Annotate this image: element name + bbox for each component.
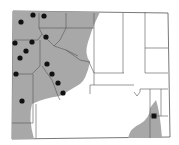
occurrence-dot-marker [60, 90, 65, 95]
occurrence-dot-marker [19, 98, 24, 103]
occurrence-square-marker [152, 114, 157, 119]
range-map [0, 0, 179, 145]
occurrence-dot-marker [12, 40, 17, 45]
occurrence-dot-marker [43, 34, 48, 39]
occurrence-dot-marker [44, 61, 49, 66]
occurrence-dot-marker [55, 80, 60, 85]
occurrence-dot-marker [17, 55, 22, 60]
occurrence-dot-marker [18, 19, 23, 24]
occurrence-dot-marker [23, 48, 28, 53]
occurrence-dot-marker [30, 12, 35, 17]
occurrence-dot-marker [29, 39, 34, 44]
occurrence-squares [152, 114, 157, 119]
occurrence-dot-marker [49, 71, 54, 76]
occurrence-dot-marker [41, 13, 46, 18]
occurrence-dot-marker [13, 71, 18, 76]
